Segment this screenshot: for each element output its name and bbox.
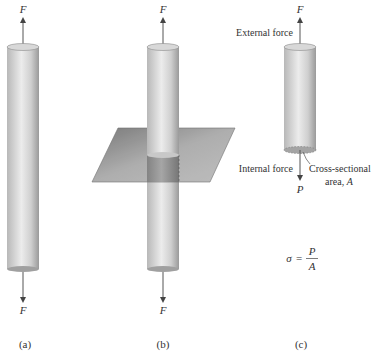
equation-numerator: P [308, 245, 316, 257]
cross-section-label-line1: Cross-sectional [309, 163, 371, 174]
panel-c: F External force Internal force P Cross-… [236, 3, 371, 351]
panel-b: F F (b) [92, 3, 235, 351]
equation-equals: = [296, 252, 302, 264]
panel-a: F F (a) [7, 3, 39, 351]
panel-caption-a: (a) [19, 338, 32, 351]
free-body-cylinder [284, 44, 316, 154]
panel-caption-c: (c) [295, 338, 308, 351]
equation-denominator: A [308, 260, 316, 272]
top-force-label: F [19, 3, 27, 15]
top-force-label: F [296, 3, 304, 15]
equation-sigma: σ [286, 252, 292, 264]
top-force-label: F [159, 3, 167, 15]
internal-force-symbol: P [296, 183, 304, 195]
cut-section [147, 155, 179, 182]
bottom-force-label: F [19, 304, 27, 316]
internal-force-label: Internal force [239, 163, 294, 174]
panel-caption-b: (b) [157, 338, 170, 351]
stress-diagram: F F (a) F F (b) [0, 0, 381, 355]
external-force-label: External force [236, 27, 293, 38]
cross-section-label-line2: area, A [325, 176, 354, 187]
bar-cylinder-upper [147, 44, 179, 159]
bar-cylinder [7, 44, 39, 273]
stress-equation: σ = P A [286, 245, 318, 272]
bottom-force-label: F [159, 304, 167, 316]
